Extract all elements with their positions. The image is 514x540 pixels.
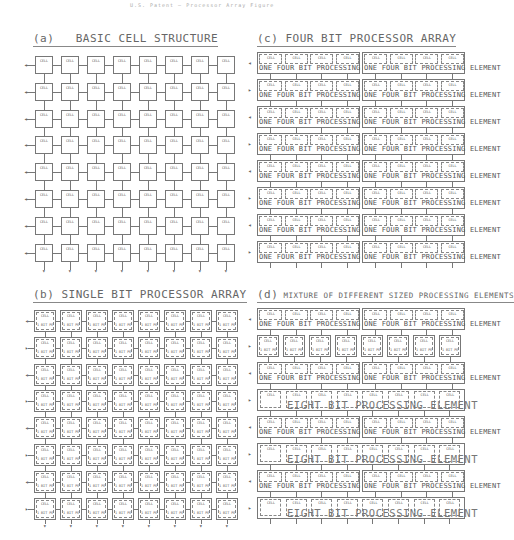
cell-label: CELL [372,164,380,168]
pe-label: 1 BIT PE [219,484,235,488]
arrow-left-icon: ◂ [24,169,28,175]
cell-label: CELL [293,137,301,141]
vertical-link [122,101,123,110]
cell-label: CELL [40,86,48,90]
horizontal-link [105,172,113,173]
cell-label: CELL [267,83,275,87]
vertical-link [96,101,97,110]
vertical-link [226,235,227,244]
cell-label: CELL [398,164,406,168]
cell-label: CELL [41,368,49,372]
cell-label: CELL [394,339,402,343]
pe-label: 1 BIT PE [193,511,209,515]
cell-label: CELL [92,220,100,224]
vertical-link [44,208,45,217]
cell-label: CELL [267,137,275,141]
cell-label: CELL [293,245,301,249]
cell-label: CELL [145,341,153,345]
vertical-link [200,208,201,217]
pe-label: 1 BIT PE [312,348,328,352]
vertical-link [96,235,97,244]
cell-label: CELL [196,59,204,63]
cell-label: CELL [171,421,179,425]
cell-label: CELL [293,366,301,370]
cell-label: CELL [67,368,75,372]
cell-label: CELL [318,218,326,222]
cell-label: CELL [67,502,75,506]
pe-label: 1 BIT PE [63,350,79,354]
arrow-left-icon: ◂ [248,424,252,430]
pe-label: ONE FOUR BIT PROCESSING ELEMENT [364,172,501,180]
cell-label: CELL [222,166,230,170]
vertical-link [270,263,271,268]
pe-label: 1 BIT PE [167,457,183,461]
cell-label: CELL [145,394,153,398]
arrow-left-icon: ◂ [24,116,28,122]
cell-label: CELL [93,475,101,479]
pe-label: ONE FOUR BIT PROCESSING ELEMENT [364,428,501,436]
cell-label: CELL [316,339,324,343]
cell-label: CELL [449,218,457,222]
vertical-link [148,74,149,83]
vertical-link [226,74,227,83]
cell-label: CELL [41,341,49,345]
arrow-down-icon: ▾ [42,268,46,274]
cell-label: CELL [293,312,301,316]
cell-label: CELL [92,59,100,63]
cell-label: CELL [197,421,205,425]
cell-label: CELL [223,448,231,452]
pe-label: 1 BIT PE [193,430,209,434]
vertical-link [226,208,227,217]
pe-label: 1 BIT PE [141,377,157,381]
arrow-left-icon: ◂ [248,168,252,174]
horizontal-link [53,226,61,227]
cell-label: CELL [318,191,326,195]
cell-label: CELL [170,139,178,143]
cell-label: CELL [66,220,74,224]
vertical-link [122,128,123,137]
cell-label: CELL [145,314,153,318]
vertical-link [296,519,297,524]
cell-label: CELL [92,139,100,143]
cell-label: CELL [67,394,75,398]
horizontal-link [209,199,217,200]
pe-label: 1 BIT PE [167,323,183,327]
pe-label: 1 BIT PE [167,403,183,407]
arrow-down-icon: ▾ [43,523,47,529]
cell-label: CELL [449,366,457,370]
cell-label: CELL [423,218,431,222]
cell-label: CELL [119,368,127,372]
cell-label: CELL [264,339,272,343]
arrow-left-icon: ◂ [24,196,28,202]
vertical-link [174,101,175,110]
arrow-right-icon: ▸ [248,397,252,403]
cell-label: CELL [41,475,49,479]
cell-label: CELL [267,474,275,478]
arrow-right-icon: ▸ [25,398,29,404]
cell-label: CELL [318,56,326,60]
vertical-link [226,128,227,137]
pe-label: 1 BIT PE [63,403,79,407]
vertical-link [347,263,348,268]
cell-label: CELL [423,245,431,249]
pe-label: 1 BIT PE [364,348,380,352]
arrow-down-icon: ▾ [69,523,73,529]
arrow-down-icon: ▾ [199,523,203,529]
cell-label: CELL [197,475,205,479]
cell-label: CELL [223,394,231,398]
cell-label: CELL [92,247,100,251]
cell-label: CELL [67,314,75,318]
vertical-link [174,154,175,163]
horizontal-link [131,226,139,227]
arrow-down-icon: ▾ [120,268,124,274]
cell-label: CELL [93,368,101,372]
pe-label: 1 BIT PE [141,350,157,354]
vertical-link [70,74,71,83]
vertical-link [148,208,149,217]
cell-label: CELL [344,501,352,505]
cell-label: CELL [318,501,326,505]
patent-header: U.S. Patent — Processor Array Figure [130,2,274,8]
horizontal-link [79,65,87,66]
cell-label: CELL [344,164,352,168]
cell-label: CELL [41,448,49,452]
